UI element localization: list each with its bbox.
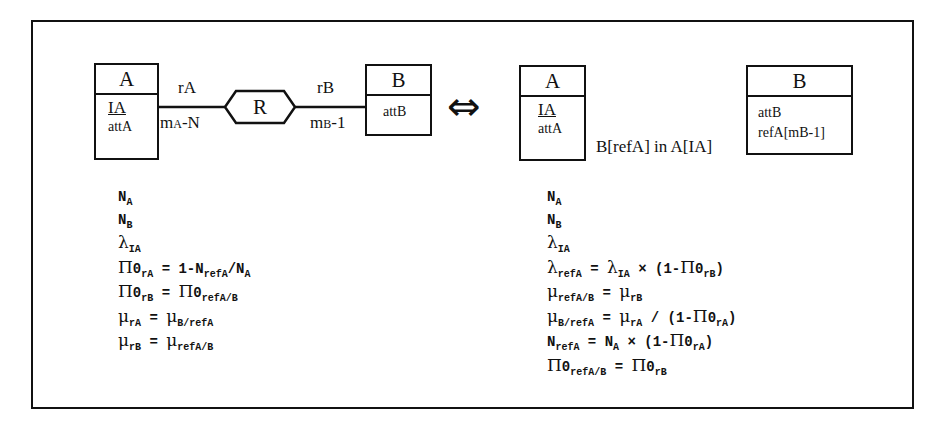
formula: λIA xyxy=(118,231,251,256)
cardinality-m: m xyxy=(310,113,323,132)
entity-name: A xyxy=(521,67,584,97)
cardinality-a: mA-N xyxy=(160,113,200,133)
cardinality-value: -N xyxy=(182,113,200,132)
formula: λrefA = λIA × (1-Π0rB) xyxy=(547,256,736,281)
formula: NA xyxy=(118,186,251,209)
entity-name: A xyxy=(96,65,157,95)
attribute-foreign-key: refA[mB-1] xyxy=(758,123,851,143)
formula: NrefA = NA × (1-Π0rA) xyxy=(547,329,736,354)
cardinality-b: mB-1 xyxy=(310,113,345,133)
formula: μB/refA = μrA / (1-Π0rA) xyxy=(547,305,736,330)
formula: μrefA/B = μrB xyxy=(547,280,736,305)
equivalence-arrow-icon: ⇔ xyxy=(447,84,481,128)
formula: Π0rA = 1-NrefA/NA xyxy=(118,256,251,281)
attribute: attA xyxy=(108,117,157,136)
formula: NA xyxy=(547,186,736,209)
cardinality-sub: A xyxy=(173,117,182,131)
entity-name: B xyxy=(748,67,851,97)
inclusion-constraint: B[refA] in A[IA] xyxy=(596,137,712,157)
formula: μrB = μrefA/B xyxy=(118,329,251,354)
formula: NB xyxy=(118,209,251,232)
entity-name: B xyxy=(367,66,430,96)
cardinality-m: m xyxy=(160,113,173,132)
attribute: attB xyxy=(758,103,851,123)
role-a-label: rA xyxy=(178,78,196,98)
attribute: attA xyxy=(538,119,584,138)
attribute-key: IA xyxy=(538,100,584,119)
formula: Π0rB = Π0refA/B xyxy=(118,280,251,305)
left-entity-a: A IA attA xyxy=(94,63,159,160)
cardinality-value: -1 xyxy=(331,113,345,132)
left-formula-list: NANBλIAΠ0rA = 1-NrefA/NAΠ0rB = Π0refA/Bμ… xyxy=(118,186,251,354)
right-entity-a: A IA attA xyxy=(519,65,586,161)
left-entity-b: B attB xyxy=(365,64,432,136)
formula: NB xyxy=(547,209,736,232)
right-formula-list: NANBλIAλrefA = λIA × (1-Π0rB)μrefA/B = μ… xyxy=(547,186,736,378)
relationship-name: R xyxy=(253,95,267,120)
formula: Π0refA/B = Π0rB xyxy=(547,354,736,379)
attribute: attB xyxy=(383,102,430,121)
formula: μrA = μB/refA xyxy=(118,305,251,330)
attribute-key: IA xyxy=(108,98,157,117)
role-b-label: rB xyxy=(317,78,334,98)
formula: λIA xyxy=(547,231,736,256)
right-entity-b: B attB refA[mB-1] xyxy=(746,65,853,155)
